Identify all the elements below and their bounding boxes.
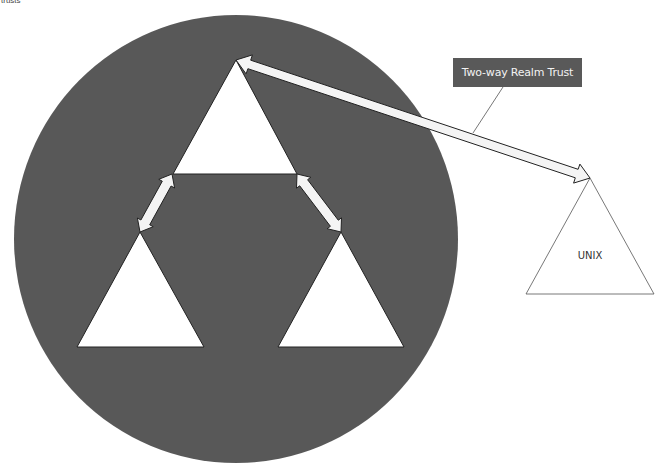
unix-label: UNIX — [570, 250, 610, 261]
unix-realm-triangle — [526, 178, 654, 294]
two-way-realm-trust-callout: Two-way Realm Trust — [453, 58, 582, 87]
cropped-caption-text: trusts — [1, 0, 21, 5]
callout-pointer-line — [473, 87, 503, 133]
trust-diagram: trusts Two-way Realm Trust UNIX — [0, 0, 664, 476]
callout-label: Two-way Realm Trust — [462, 66, 573, 79]
